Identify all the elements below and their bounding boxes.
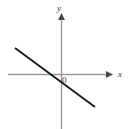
coordinate-plane-figure: y x 0	[0, 0, 130, 129]
origin-label: 0	[62, 76, 67, 85]
graph-canvas	[0, 0, 130, 129]
x-axis-arrowhead-icon	[106, 71, 113, 78]
x-axis	[8, 71, 113, 78]
x-axis-label: x	[118, 70, 122, 79]
y-axis-label: y	[57, 4, 61, 13]
y-axis-arrowhead-icon	[58, 13, 65, 20]
y-axis	[58, 13, 65, 129]
plotted-line	[15, 48, 95, 107]
